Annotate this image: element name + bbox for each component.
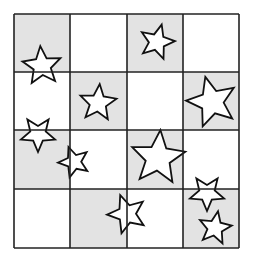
grid-cell-r1c2	[70, 14, 127, 72]
grid-cell-r3c4	[183, 130, 239, 189]
grid-cell-r2c3	[127, 72, 183, 130]
grid-cell-r1c4	[183, 14, 239, 72]
star-grid	[0, 0, 253, 264]
grid-cell-r4c1	[14, 189, 70, 248]
grid-cell-r2c1	[14, 72, 70, 130]
